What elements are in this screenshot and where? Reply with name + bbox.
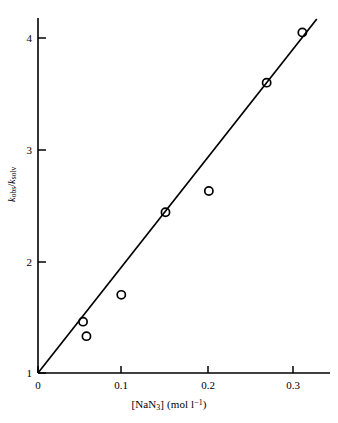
x-axis-label: [NaN3] (mol l−1): [0, 398, 338, 412]
y-axis-ticks: [38, 38, 46, 373]
y-axis-label-sub-obs: obs: [9, 187, 18, 197]
axes-group: [38, 18, 330, 373]
x-axis-label-superscript: −1: [194, 398, 203, 407]
y-axis-label-sub-solv: solv: [9, 167, 18, 180]
y-tick-label-2: 2: [14, 257, 32, 268]
y-tick-label-4: 4: [14, 33, 32, 44]
y-axis-label: kobs/ksolv: [6, 154, 19, 214]
x-tick-label-0.2: 0.2: [191, 380, 225, 391]
x-tick-label-0.3: 0.3: [276, 380, 310, 391]
x-axis-label-units-close: ): [203, 398, 207, 410]
x-tick-label-0: 0: [21, 380, 55, 391]
data-point: [205, 187, 213, 195]
x-tick-label-0.1: 0.1: [104, 380, 138, 391]
y-axis-label-k-obs: k: [6, 197, 17, 202]
x-axis-label-units-open: (mol l: [164, 398, 194, 410]
chart-figure: 4 3 2 1 0 0.1 0.2 0.3 [NaN3] (mol l−1) k…: [0, 0, 338, 423]
data-point: [79, 318, 87, 326]
data-point: [117, 291, 125, 299]
scatter-plot-canvas: [0, 0, 338, 423]
y-axis-label-slash: /: [6, 184, 17, 187]
data-point: [82, 332, 90, 340]
x-axis-ticks: [38, 366, 293, 373]
x-axis-label-bracket-open: [NaN: [131, 398, 156, 410]
y-axis-label-k-solv: k: [6, 179, 17, 184]
y-tick-label-1: 1: [14, 368, 32, 379]
